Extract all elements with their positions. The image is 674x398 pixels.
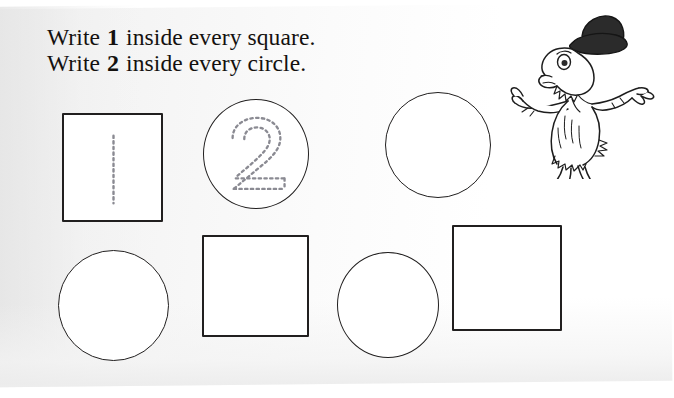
instructions-block: Write 1 inside every square. Write 2 ins…	[47, 24, 315, 76]
instruction-line-1: Write 1 inside every square.	[47, 24, 315, 50]
square-1-row1[interactable]	[62, 113, 163, 222]
trace-guide-numeral-1	[64, 115, 165, 224]
instruction-2-prefix: Write	[47, 50, 106, 76]
circle-3-row2[interactable]	[337, 252, 439, 358]
bowler-hat-shape	[570, 16, 627, 54]
circle-2-row1[interactable]	[203, 99, 309, 209]
instruction-2-suffix: inside every circle.	[120, 50, 306, 76]
instruction-1-suffix: inside every square.	[120, 24, 315, 50]
circle-1-row2[interactable]	[58, 250, 169, 361]
instruction-1-prefix: Write	[47, 24, 106, 50]
instruction-line-2: Write 2 inside every circle.	[47, 50, 315, 76]
creature-illustration	[508, 4, 658, 179]
trace-guide-numeral-2	[204, 100, 310, 210]
square-4-row2[interactable]	[452, 225, 562, 331]
instruction-2-numeral: 2	[106, 50, 120, 76]
circle-3-row1[interactable]	[385, 92, 491, 198]
instruction-1-numeral: 1	[106, 24, 120, 50]
square-2-row2[interactable]	[202, 235, 309, 337]
